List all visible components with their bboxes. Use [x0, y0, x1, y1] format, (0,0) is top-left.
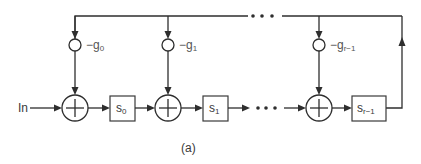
ellipsis-dot	[264, 106, 268, 110]
gain-circle	[313, 39, 325, 51]
figure-caption: (a)	[181, 141, 196, 155]
gain-label-0: −g0	[86, 38, 105, 53]
arrow-down-icon	[165, 87, 172, 95]
arrow-right-icon	[54, 105, 62, 112]
tap-r-1: −gr−1	[313, 31, 356, 95]
feedback-bus	[75, 14, 406, 108]
register-s1: s1	[203, 96, 228, 121]
arrow-right-icon	[344, 105, 352, 112]
adder-0	[62, 95, 88, 121]
arrow-right-icon	[147, 105, 155, 112]
arrow-right-icon	[195, 105, 203, 112]
arrow-right-icon	[298, 105, 306, 112]
arrow-right-icon	[102, 105, 110, 112]
arrow-down-icon	[72, 31, 79, 39]
gain-circle	[162, 39, 174, 51]
arrow-down-icon	[165, 31, 172, 39]
arrow-down-icon	[316, 31, 323, 39]
ellipsis-dot	[256, 106, 260, 110]
arrow-right-icon	[242, 105, 250, 112]
shift-register-diagram: −g0 −g1 −gr−1 In s0	[0, 0, 421, 164]
register-s-r-1: sr−1	[352, 96, 386, 121]
arrow-up-icon	[399, 37, 406, 46]
ellipsis-dot	[260, 14, 264, 18]
ellipsis-dot	[270, 14, 274, 18]
tap-1: −g1	[162, 31, 198, 95]
arrow-down-icon	[316, 87, 323, 95]
gain-label-1: −g1	[179, 38, 198, 53]
ellipsis-dot	[273, 106, 277, 110]
tap-0: −g0	[69, 16, 105, 95]
register-s0: s0	[110, 96, 135, 121]
arrow-down-icon	[72, 87, 79, 95]
input-label: In	[18, 101, 28, 115]
gain-circle	[69, 39, 81, 51]
ellipsis-dot	[251, 14, 255, 18]
adder-r-1	[306, 95, 332, 121]
adder-1	[155, 95, 181, 121]
gain-label-r-1: −gr−1	[330, 38, 356, 53]
